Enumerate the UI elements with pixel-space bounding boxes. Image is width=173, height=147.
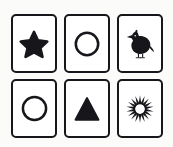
triangle-icon bbox=[66, 81, 108, 136]
circle-icon bbox=[66, 16, 108, 71]
card-grid bbox=[11, 14, 163, 138]
card-star[interactable] bbox=[11, 14, 57, 73]
card-triangle[interactable] bbox=[64, 79, 110, 138]
card-bird[interactable] bbox=[117, 14, 163, 73]
card-grid-scene bbox=[0, 0, 173, 147]
bird-icon bbox=[119, 16, 161, 71]
star-icon bbox=[13, 16, 55, 71]
circle-icon bbox=[13, 81, 55, 136]
card-circle-bottom[interactable] bbox=[11, 79, 57, 138]
card-circle-top[interactable] bbox=[64, 14, 110, 73]
starburst-icon bbox=[119, 81, 161, 136]
card-starburst[interactable] bbox=[117, 79, 163, 138]
